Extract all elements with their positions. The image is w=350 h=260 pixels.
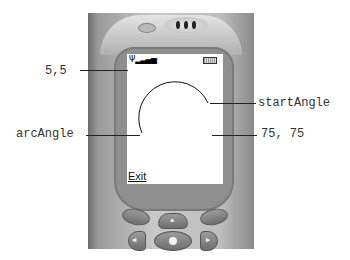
start-angle-leader-line [210, 103, 256, 104]
size-label: 75, 75 [261, 127, 304, 141]
origin-label: 5,5 [45, 64, 67, 78]
origin-leader-line [80, 70, 128, 71]
arc-angle-leader-line [86, 135, 140, 136]
start-angle-label: startAngle [258, 96, 330, 110]
arc-angle-label: arcAngle [16, 127, 74, 141]
size-leader-line [212, 135, 257, 136]
